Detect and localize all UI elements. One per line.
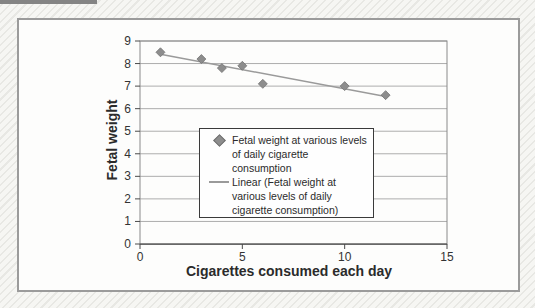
svg-text:3: 3 [124,169,131,183]
svg-text:7: 7 [124,79,131,93]
svg-text:6: 6 [124,102,131,116]
svg-text:10: 10 [338,250,352,264]
svg-text:5: 5 [239,250,246,264]
legend-label-trendline: Linear (Fetal weight at various levels o… [232,175,371,217]
svg-text:2: 2 [124,192,131,206]
scatter-point [258,79,267,88]
y-axis-title: Fetal weight [104,100,120,181]
x-axis-title: Cigarettes consumed each day [186,263,392,279]
svg-text:4: 4 [124,147,131,161]
svg-text:0: 0 [137,250,144,264]
cropped-heading-rule [0,0,97,4]
legend: Fetal weight at various levels of daily … [199,128,374,218]
svg-text:1: 1 [124,214,131,228]
legend-entry-scatter: Fetal weight at various levels of daily … [206,133,371,175]
svg-text:5: 5 [124,124,131,138]
legend-entry-trendline: Linear (Fetal weight at various levels o… [206,175,371,217]
legend-label-scatter: Fetal weight at various levels of daily … [232,133,371,175]
line-marker-icon [209,181,229,183]
scatter-point [381,91,390,100]
svg-text:9: 9 [124,34,131,48]
svg-text:15: 15 [440,250,454,264]
diamond-marker-icon [213,134,226,147]
chart-panel: 0123456789051015 Fetal weight Cigarettes… [17,18,520,292]
svg-text:8: 8 [124,57,131,71]
svg-text:0: 0 [124,237,131,251]
page: { "chart_data": { "type": "scatter", "ti… [0,0,535,308]
